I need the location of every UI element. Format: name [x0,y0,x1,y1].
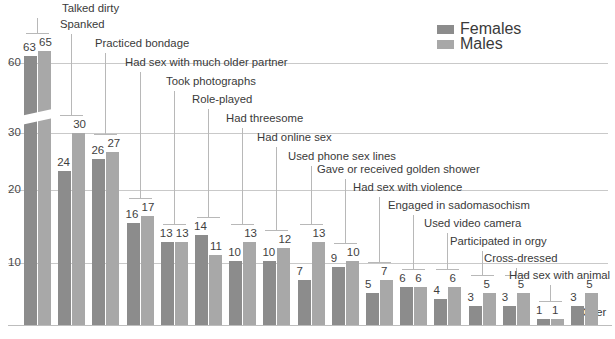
bar-value-males-13: 5 [484,278,490,290]
bar-value-females-8: 7 [297,265,303,277]
leader-cap-7 [265,230,288,231]
bar-value-males-0: 65 [39,36,52,48]
leader-cap-3 [129,198,152,199]
bar-value-males-2: 27 [107,137,120,149]
y-tick-20: 20 [8,183,21,195]
bar-males-0 [38,51,51,325]
leader-cap-4 [163,224,186,225]
bar-chart: 60 30 20 10 Females Males Other 63652430… [0,0,615,339]
bar-males-13 [483,293,496,325]
leader-line-11 [413,215,414,269]
bar-value-males-9: 10 [347,246,360,258]
bar-males-15 [551,319,564,325]
bar-value-females-5: 14 [194,220,207,232]
bar-value-males-5: 11 [210,240,222,252]
bar-males-16 [585,293,598,325]
leader-line-8 [311,166,312,224]
bar-males-11 [414,287,427,325]
gridline-60 [8,63,608,64]
bar-females-6 [229,261,242,325]
bar-value-females-2: 26 [91,144,104,156]
bar-value-males-1: 30 [73,118,86,130]
bar-value-females-4: 13 [160,227,173,239]
bar-females-9 [332,267,345,325]
bar-males-9 [346,261,359,325]
category-label-4: Took photographs [166,75,256,87]
bar-females-13 [469,306,482,325]
y-tick-30: 30 [8,126,21,138]
leader-cap-2 [94,134,117,135]
legend-item-males: Males [437,35,503,53]
leader-line-15 [550,285,551,301]
category-label-1: Spanked [60,18,105,30]
bar-females-3 [127,223,140,325]
bar-males-6 [243,242,256,325]
leader-cap-10 [368,262,391,263]
bar-value-females-14: 3 [502,291,508,303]
bar-value-males-12: 6 [449,272,455,284]
leader-cap-15 [539,301,562,302]
bar-females-0 [24,56,37,325]
bar-value-males-6: 13 [244,227,257,239]
leader-line-4 [174,91,175,224]
bar-value-males-15: 1 [552,304,558,316]
leader-line-0 [37,18,38,33]
category-label-15: Had sex with animal [509,269,610,281]
leader-line-3 [140,72,141,198]
bar-females-16 [571,306,584,325]
bar-value-females-13: 3 [468,291,474,303]
bar-value-females-15: 1 [536,304,542,316]
legend-swatch-males-icon [437,40,454,49]
bar-value-females-11: 6 [399,272,405,284]
leader-line-7 [276,147,277,230]
bar-females-15 [537,319,550,325]
y-tick-10: 10 [8,256,21,268]
bar-value-females-7: 10 [262,246,275,258]
category-label-12: Used video camera [424,217,521,229]
bar-males-7 [277,248,290,325]
category-label-14: Cross-dressed [484,252,557,264]
bar-females-4 [161,242,174,325]
bar-males-10 [380,280,393,325]
bar-females-5 [195,235,208,325]
bar-value-females-12: 4 [433,284,439,296]
bar-value-females-3: 16 [126,208,139,220]
bar-males-3 [141,216,154,325]
bar-value-females-9: 9 [331,252,337,264]
y-tick-60: 60 [8,56,21,68]
category-label-7: Had online sex [257,131,332,143]
category-label-5: Role-played [192,93,252,105]
leader-cap-1 [60,115,83,116]
leader-line-9 [345,179,346,243]
category-label-2: Practiced bondage [95,37,189,49]
leader-cap-13 [471,275,494,276]
bar-value-males-7: 12 [278,233,291,245]
bar-value-males-3: 17 [142,201,155,213]
bar-males-12 [448,287,461,325]
legend-swatch-females-icon [437,25,454,34]
bar-females-14 [503,306,516,325]
leader-cap-9 [334,243,357,244]
legend-label-males: Males [460,35,503,53]
leader-line-6 [242,128,243,224]
leader-line-2 [105,53,106,134]
bar-females-8 [298,280,311,325]
bar-value-males-10: 7 [381,265,387,277]
bar-females-2 [92,159,105,325]
leader-cap-0 [26,33,49,34]
bar-value-females-6: 10 [228,246,241,258]
leader-cap-6 [231,224,254,225]
bar-males-1 [72,133,85,325]
leader-cap-8 [300,224,323,225]
bar-value-males-4: 13 [176,227,189,239]
leader-line-12 [447,233,448,269]
leader-cap-5 [197,217,220,218]
bar-value-females-10: 5 [365,278,371,290]
bar-males-2 [106,152,119,325]
bar-value-males-11: 6 [415,272,421,284]
bar-value-females-0: 63 [23,41,36,53]
bar-females-11 [400,287,413,325]
leader-line-1 [71,34,72,115]
bar-value-females-1: 24 [57,156,70,168]
bar-males-8 [312,242,325,325]
